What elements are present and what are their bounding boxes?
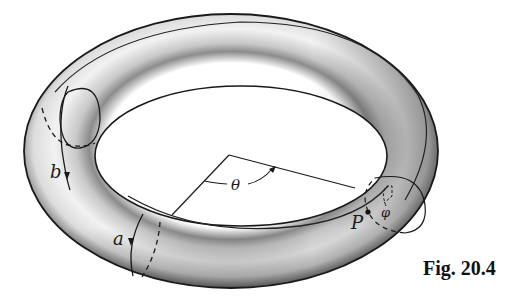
label-theta: θ	[231, 176, 240, 194]
label-phi: φ	[381, 205, 391, 220]
torus-body	[24, 14, 438, 288]
label-a: a	[113, 228, 124, 249]
torus-figure: b a θ P φ	[0, 0, 511, 299]
label-p: P	[350, 212, 364, 233]
label-b: b	[50, 161, 62, 182]
figure-caption: Fig. 20.4	[423, 257, 496, 280]
point-p-marker	[365, 209, 370, 214]
